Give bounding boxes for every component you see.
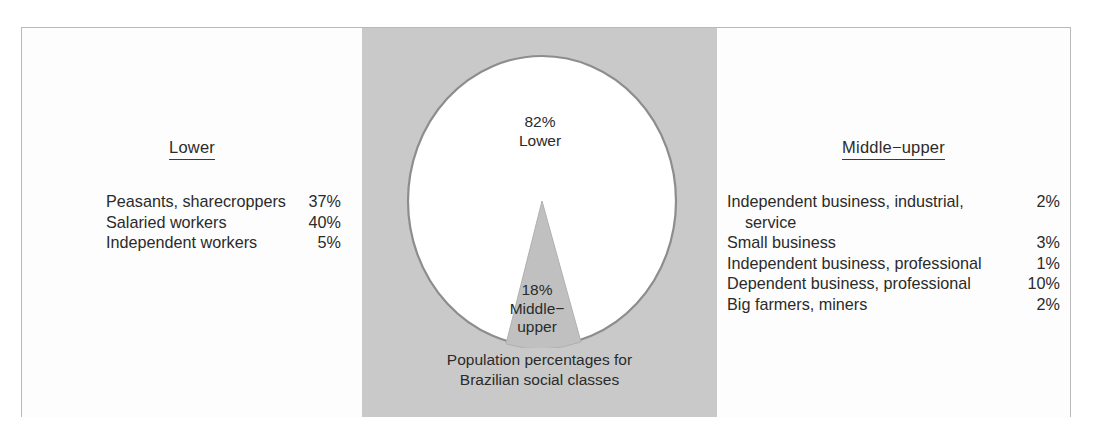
item-value: 5% [295,232,341,253]
lower-panel-title: Lower [22,138,362,157]
pie-chart: 82% Lower 18% Middle− upper Population p… [362,28,717,417]
table-row: Dependent business, professional 10% [727,273,1060,294]
item-label: Big farmers, miners [727,294,1012,315]
table-row: Big farmers, miners 2% [727,294,1060,315]
table-row: Peasants, sharecroppers 37% [106,191,341,212]
item-value: 3% [1012,232,1060,253]
table-row: Independent business, professional 1% [727,253,1060,274]
item-label: Independent business, professional [727,253,1012,274]
lower-class-item-table: Peasants, sharecroppers 37% Salaried wor… [106,191,341,253]
pie-label-middle-upper: 18% Middle− upper [482,281,592,337]
item-value: 40% [295,212,341,233]
table-row: Salaried workers 40% [106,212,341,233]
middle-upper-class-panel: Middle−upper Independent business, indus… [717,28,1070,417]
lower-panel-title-text: Lower [169,138,215,160]
item-label: Independent workers [106,232,295,253]
item-label: Independent business, industrial, servic… [727,191,1012,232]
item-value: 1% [1012,253,1060,274]
pie-label-lower: 82% Lower [465,113,615,150]
item-label: Small business [727,232,1012,253]
pie-chart-caption: Population percentages for Brazilian soc… [362,350,717,389]
table-row: Independent workers 5% [106,232,341,253]
item-value: 37% [295,191,341,212]
middle-upper-panel-title-text: Middle−upper [842,138,945,160]
item-label: Salaried workers [106,212,295,233]
item-value: 2% [1012,191,1060,232]
table-row: Independent business, industrial, servic… [727,191,1060,232]
item-label: Dependent business, professional [727,273,1012,294]
item-value: 2% [1012,294,1060,315]
table-row: Small business 3% [727,232,1060,253]
middle-upper-panel-title: Middle−upper [717,138,1070,157]
pie-chart-panel: 82% Lower 18% Middle− upper Population p… [362,28,717,417]
item-label: Peasants, sharecroppers [106,191,295,212]
item-value: 10% [1012,273,1060,294]
lower-class-panel: Lower Peasants, sharecroppers 37% Salari… [22,28,362,417]
middle-upper-item-table: Independent business, industrial, servic… [727,191,1060,314]
